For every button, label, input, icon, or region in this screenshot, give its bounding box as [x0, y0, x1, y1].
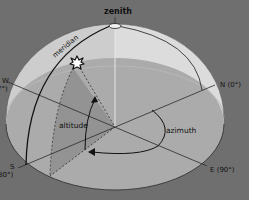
zenith-marker [109, 24, 121, 29]
right-margin [249, 0, 257, 202]
south-label: S [10, 163, 15, 171]
zenith-label: zenith [104, 7, 132, 16]
azimuth-label: azimuth [166, 126, 197, 135]
west-degree-label: 7°) [0, 85, 8, 93]
altitude-label: altitude [59, 121, 88, 130]
celestial-sphere-diagram: zenith meridian altitude azimuth N (0°) … [0, 0, 257, 202]
east-label: E (90°) [210, 166, 235, 174]
south-degree-label: 80°) [0, 171, 13, 179]
west-label: W [2, 77, 9, 85]
north-label: N (0°) [220, 81, 241, 89]
